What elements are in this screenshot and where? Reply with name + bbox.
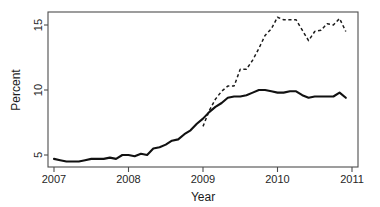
y-tick-label-15: 15 <box>32 19 44 31</box>
y-axis-title: Percent <box>9 69 23 111</box>
y-tick-label-5: 5 <box>32 152 44 158</box>
plot-frame <box>48 12 358 167</box>
x-tick-label-2008: 2008 <box>116 173 140 185</box>
chart-figure: 5 10 15 2007 2008 2009 2010 2011 Percent… <box>0 0 380 207</box>
y-tick-label-10: 10 <box>32 84 44 96</box>
y-axis: 5 10 15 <box>32 19 48 158</box>
x-tick-label-2007: 2007 <box>42 173 66 185</box>
line-chart: 5 10 15 2007 2008 2009 2010 2011 Percent… <box>0 0 380 207</box>
x-tick-label-2010: 2010 <box>265 173 289 185</box>
x-tick-label-2009: 2009 <box>191 173 215 185</box>
series-dashed-line <box>203 17 346 126</box>
x-tick-label-2011: 2011 <box>340 173 364 185</box>
x-axis-title: Year <box>191 190 215 204</box>
series-solid-line <box>54 90 346 162</box>
x-axis: 2007 2008 2009 2010 2011 <box>42 167 364 185</box>
